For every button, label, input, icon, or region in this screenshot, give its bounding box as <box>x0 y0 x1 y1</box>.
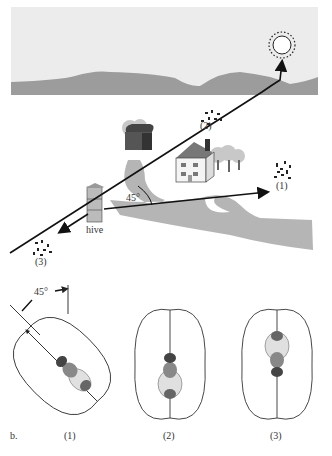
label-angle-b: 45° <box>34 286 48 297</box>
label-dance-3: (3) <box>270 430 282 441</box>
flower-patch-1-icon <box>274 161 291 179</box>
direction-line-3 <box>60 214 88 232</box>
landscape-panel <box>10 7 318 256</box>
label-panel-b: b. <box>10 430 18 441</box>
bee-icon-3 <box>265 331 289 377</box>
label-food-2: (2) <box>200 120 212 131</box>
bee-icon-2 <box>158 353 182 399</box>
waggle-dance-diagram <box>0 0 332 456</box>
flower-patch-3-icon <box>33 240 52 256</box>
label-hive: hive <box>86 224 103 235</box>
bee-icon-1 <box>52 352 96 396</box>
label-dance-2: (2) <box>163 430 175 441</box>
dance-panel <box>0 285 312 429</box>
label-dance-1: (1) <box>64 430 76 441</box>
trees-icon <box>210 145 245 172</box>
barn-icon <box>122 119 154 150</box>
label-food-3: (3) <box>35 256 47 267</box>
dance-axis-1 <box>10 305 40 335</box>
label-angle-a: 45° <box>126 192 140 203</box>
house-icon <box>176 139 214 182</box>
label-food-1: (1) <box>276 180 288 191</box>
